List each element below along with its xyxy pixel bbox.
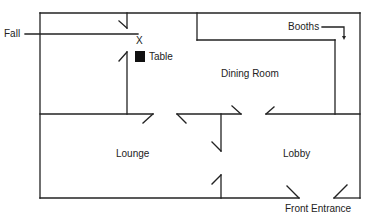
- door-swing: [143, 114, 153, 123]
- room-dining-room: Dining Room: [221, 69, 279, 79]
- front-entrance-label: Front Entrance: [285, 204, 351, 214]
- booths-label: Booths: [288, 22, 319, 32]
- door-swing: [212, 175, 221, 184]
- arrowhead-icon: [342, 36, 346, 40]
- door-swing: [232, 106, 241, 114]
- room-lounge: Lounge: [116, 149, 149, 159]
- room-lobby: Lobby: [283, 149, 310, 159]
- door-swing: [266, 107, 274, 114]
- door-swing: [334, 185, 347, 198]
- floor-plan: [0, 0, 374, 222]
- door-swing: [177, 114, 186, 123]
- fall-label: Fall: [4, 29, 20, 39]
- table-icon: [135, 51, 145, 62]
- booths-arrow-icon: [322, 27, 344, 37]
- door-swings: [119, 21, 347, 198]
- walls: [40, 13, 360, 198]
- door-swing: [119, 21, 127, 28]
- door-swing: [287, 186, 299, 198]
- door-swing: [212, 142, 221, 151]
- x-mark: X: [136, 36, 143, 46]
- table-label: Table: [149, 52, 173, 62]
- door-swing: [119, 52, 127, 61]
